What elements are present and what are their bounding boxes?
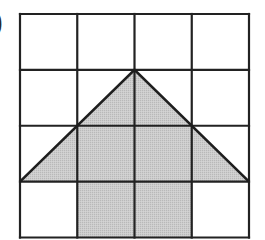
grid-figure [0,0,265,240]
grid-lines [19,13,250,239]
